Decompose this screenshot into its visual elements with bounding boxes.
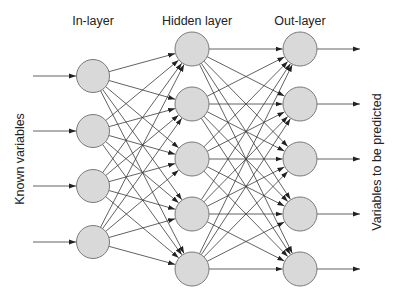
output-node-2 [283, 87, 317, 121]
connection-edge [101, 65, 184, 228]
output-node-4 [283, 197, 317, 231]
connection-edge [109, 164, 175, 182]
output-node-3 [283, 142, 317, 176]
hidden-node-4 [175, 197, 209, 231]
connection-edge [109, 80, 175, 99]
connection-edge [109, 135, 175, 154]
connection-edge [109, 219, 175, 238]
connection-edge [109, 54, 175, 72]
known-variables-label: Known variables [13, 113, 27, 205]
hidden-node-1 [175, 32, 209, 66]
neural-network-diagram: In-layer Hidden layer Out-layer Known va… [0, 0, 395, 300]
input-node-4 [77, 226, 110, 259]
input-layer-label: In-layer [72, 14, 114, 28]
predicted-variables-label: Variables to be predicted [370, 93, 384, 230]
hidden-node-3 [175, 142, 209, 176]
output-layer-label: Out-layer [274, 14, 325, 28]
input-node-3 [77, 170, 110, 203]
hidden-node-2 [175, 87, 209, 121]
input-node-2 [77, 115, 110, 148]
hidden-layer-label: Hidden layer [162, 14, 232, 28]
output-node-1 [283, 32, 317, 66]
connection-edge [106, 142, 179, 203]
connection-edge [103, 118, 182, 228]
connection-edge [109, 246, 175, 264]
input-node-1 [77, 60, 110, 93]
output-node-5 [283, 252, 317, 286]
hidden-node-5 [175, 252, 209, 286]
